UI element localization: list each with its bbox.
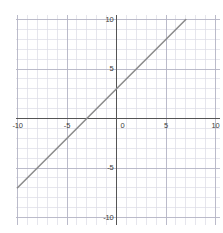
y-axis-tick-label: 10 [106,16,114,24]
x-axis-tick-label: 5 [164,122,168,130]
x-axis-tick-label: -5 [64,122,70,130]
x-axis-tick-label: -10 [12,122,22,130]
y-axis-tick-label: -5 [107,164,113,172]
plot-background [0,0,223,233]
x-axis-tick-label: 0 [121,122,125,130]
coordinate-graph: -10-50510105-5-10 [0,0,223,233]
y-axis-tick-label: -10 [103,214,113,222]
y-axis-tick-label: 5 [110,65,114,73]
plot-area [0,0,223,233]
x-axis-tick-label: 10 [212,122,220,130]
